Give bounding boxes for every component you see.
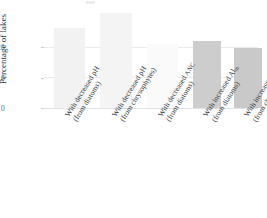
x-tick-1 xyxy=(69,108,70,111)
x-tick-3 xyxy=(162,108,163,111)
plot-area xyxy=(44,10,258,108)
bar-increased-alm-diatoms[interactable] xyxy=(193,41,221,108)
y-tick-label-10: 10 xyxy=(0,74,5,83)
bar-decreased-ph-diatoms[interactable] xyxy=(54,28,85,108)
x-tick-5 xyxy=(248,108,249,111)
x-axis-baseline xyxy=(44,108,258,109)
bar-series xyxy=(44,10,258,108)
bar-chart-figure: Percentage of lakes 20 10 0 With decr xyxy=(0,0,267,218)
x-tick-2 xyxy=(116,108,117,111)
x-tick-4 xyxy=(207,108,208,111)
y-tick-label-0: 0 xyxy=(0,104,5,113)
y-tick-label-20: 20 xyxy=(0,43,5,52)
top-edge-artifact xyxy=(86,1,95,4)
bar-increased-alm-chrysophytes[interactable] xyxy=(234,48,262,108)
bar-decreased-anc-diatoms[interactable] xyxy=(147,44,178,108)
bar-decreased-ph-chrysophytes[interactable] xyxy=(100,13,132,108)
